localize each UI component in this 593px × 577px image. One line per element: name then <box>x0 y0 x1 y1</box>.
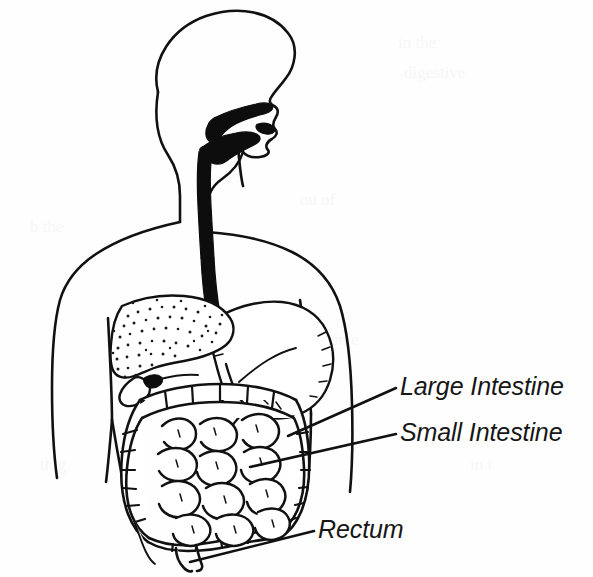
small-intestine <box>158 414 290 546</box>
svg-text:in t: in t <box>470 455 492 474</box>
svg-text:ou of: ou of <box>300 190 336 209</box>
liver <box>110 295 233 378</box>
svg-text:digestive: digestive <box>404 63 465 82</box>
diagram-canvas: in the digestive b the ou of sm a on e t… <box>0 0 593 577</box>
label-large-intestine: Large Intestine <box>400 372 564 400</box>
label-rectum: Rectum <box>318 515 404 543</box>
svg-text:th g: th g <box>40 455 66 474</box>
digestive-system-figure: in the digestive b the ou of sm a on e t… <box>0 0 593 577</box>
svg-text:b the: b the <box>30 217 64 236</box>
label-small-intestine: Small Intestine <box>400 418 562 446</box>
svg-text:in the: in the <box>398 33 436 52</box>
svg-text:on e: on e <box>330 330 359 349</box>
